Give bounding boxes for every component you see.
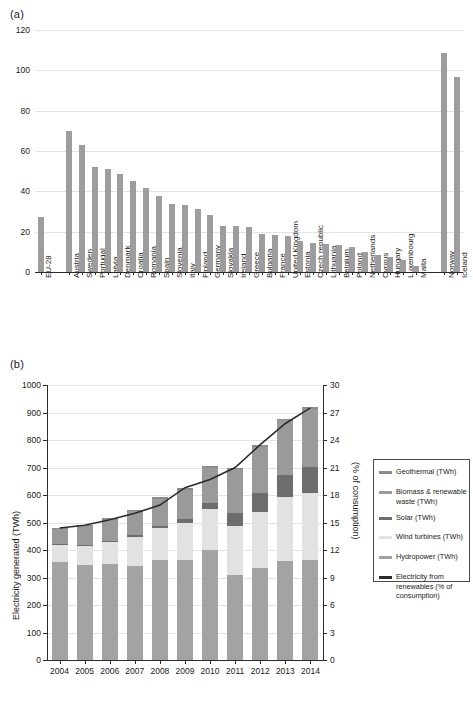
chart-b-x-tick-label: 2011 [221, 667, 249, 676]
chart-a-x-tick [185, 272, 186, 275]
chart-b-y-tick [43, 660, 47, 661]
chart-b-y-tick-label: 200 [11, 601, 41, 610]
legend-item[interactable]: Biomass & renewable waste (TWh) [379, 487, 468, 506]
chart-a-bar [349, 247, 355, 272]
chart-b-y-tick-label: 600 [11, 491, 41, 500]
chart-a-bar [105, 169, 111, 272]
chart-b-y-tick-label-right: 24 [330, 436, 346, 445]
chart-a-bar [92, 167, 98, 272]
chart-a-x-tick [249, 272, 250, 275]
chart-a-x-tick [133, 272, 134, 275]
chart-b-x-tick [185, 660, 186, 664]
chart-a-x-tick-label: EU-28 [45, 255, 53, 278]
chart-b-x-tick-label: 2007 [121, 667, 149, 676]
chart-b-y-tick-label-right: 15 [330, 519, 346, 528]
legend-swatch-icon [379, 471, 392, 474]
chart-a-x-tick [390, 272, 391, 275]
legend-item[interactable]: Electricity from renewables (% of consum… [379, 572, 468, 601]
legend-item[interactable]: Wind turbines (TWh) [379, 532, 468, 542]
chart-b-x-tick-label: 2006 [96, 667, 124, 676]
chart-a-x-tick [444, 272, 445, 275]
chart-b-x-tick-label: 2013 [271, 667, 299, 676]
chart-a-x-tick [378, 272, 379, 275]
legend-swatch-icon [379, 517, 392, 520]
chart-b-y-tick-label: 800 [11, 436, 41, 445]
gridline [35, 151, 463, 152]
chart-a-x-tick [108, 272, 109, 275]
chart-a-x-tick [313, 272, 314, 275]
chart-a-bar [454, 77, 460, 272]
chart-a-bar [182, 205, 188, 272]
chart-b-x-tick [60, 660, 61, 664]
chart-a-x-tick [159, 272, 160, 275]
chart-b-y-tick-label: 1000 [11, 381, 41, 390]
chart-b-y-tick-label: 100 [11, 629, 41, 638]
chart-b-right-axis [323, 385, 324, 660]
legend-item[interactable]: Geothermal (TWh) [379, 467, 468, 477]
chart-b-y-tick-label: 500 [11, 519, 41, 528]
chart-a-x-tick [120, 272, 121, 275]
chart-a-x-tick [275, 272, 276, 275]
chart-a-bar [272, 235, 278, 272]
chart-a-x-tick [146, 272, 147, 275]
chart-b-y-tick-label-right: 3 [330, 629, 346, 638]
legend-swatch-icon [379, 576, 392, 579]
chart-b-x-tick-label: 2004 [46, 667, 74, 676]
chart-a-bar [66, 131, 72, 272]
chart-b-x-tick [235, 660, 236, 664]
chart-b-y-tick-label-right: 0 [330, 656, 346, 665]
legend-item-label: Solar (TWh) [396, 513, 468, 523]
legend-item-label: Geothermal (TWh) [396, 467, 468, 477]
chart-b-y-tick-label-right: 30 [330, 381, 346, 390]
gridline [35, 191, 463, 192]
chart-b-y-tick-label: 300 [11, 574, 41, 583]
chart-b-x-tick [135, 660, 136, 664]
chart-b-y-tick-label-right: 6 [330, 601, 346, 610]
chart-a-x-tick [262, 272, 263, 275]
chart-a-x-tick [403, 272, 404, 275]
legend-item[interactable]: Solar (TWh) [379, 513, 468, 523]
chart-b-x-tick-label: 2010 [196, 667, 224, 676]
chart-a-plot-area: 020406080100120EU-28AustriaSwedenPortuga… [35, 30, 463, 272]
chart-a-bar [79, 145, 85, 272]
panel-a-chart: (a) 020406080100120EU-28AustriaSwedenPor… [0, 0, 473, 350]
chart-b-y-tick-label: 900 [11, 409, 41, 418]
chart-a-x-tick-label: Iceland [461, 252, 469, 278]
legend-item-label: Electricity from renewables (% of consum… [396, 572, 468, 601]
chart-a-x-tick [326, 272, 327, 275]
chart-a-x-tick [288, 272, 289, 275]
chart-b-y-axis-title-right: (% of consumption) [351, 462, 360, 540]
chart-b-x-tick [85, 660, 86, 664]
chart-b-x-tick-label: 2012 [246, 667, 274, 676]
chart-a-bar [362, 252, 368, 272]
chart-b-y-tick-label: 400 [11, 546, 41, 555]
chart-a-x-tick [198, 272, 199, 275]
chart-b-x-tick-label: 2009 [171, 667, 199, 676]
chart-a-x-tick [352, 272, 353, 275]
chart-a-x-tick [339, 272, 340, 275]
chart-a-x-tick [172, 272, 173, 275]
chart-a-x-tick [236, 272, 237, 275]
legend-item[interactable]: Hydropower (TWh) [379, 552, 468, 562]
chart-b-y-tick-label-right: 21 [330, 464, 346, 473]
chart-b-x-tick [285, 660, 286, 664]
chart-b-legend: Geothermal (TWh)Biomass & renewable wast… [373, 459, 470, 582]
legend-item-label: Hydropower (TWh) [396, 552, 468, 562]
chart-a-y-tick-label: 80 [3, 107, 30, 116]
chart-b-renewables-line [47, 385, 323, 660]
chart-a-y-tick-label: 100 [3, 66, 30, 75]
chart-a-x-tick [69, 272, 70, 275]
chart-b-y-tick-label: 700 [11, 464, 41, 473]
chart-b-x-tick [260, 660, 261, 664]
chart-a-x-tick [210, 272, 211, 275]
chart-b-y-tick-label-right: 12 [330, 546, 346, 555]
chart-b-plot-area: 0100200300400500600700800900100003691215… [47, 385, 323, 660]
chart-b-x-tick [160, 660, 161, 664]
chart-b-x-tick-label: 2005 [71, 667, 99, 676]
chart-a-bar [285, 236, 291, 272]
chart-a-x-tick [223, 272, 224, 275]
chart-b-y-tick-label-right: 9 [330, 574, 346, 583]
chart-a-y-tick-label: 20 [3, 228, 30, 237]
legend-item-label: Biomass & renewable waste (TWh) [396, 487, 468, 506]
chart-a-y-tick-label: 120 [3, 26, 30, 35]
